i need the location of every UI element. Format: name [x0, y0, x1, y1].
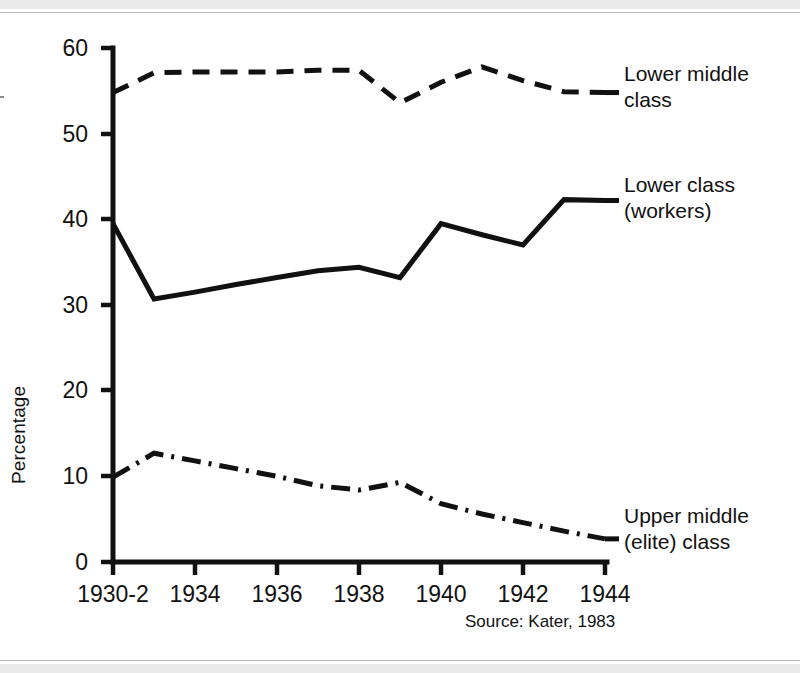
figure-container: Percentage 60 50 40 30 20 10 0 1930-2 19… [0, 0, 800, 673]
series-line-lower-class-workers [113, 200, 605, 299]
y-tick-label-40: 40 [30, 206, 88, 233]
series-label-lower-middle-class-line1: Lower middle [624, 62, 749, 85]
series-label-lower-class-line1: Lower class [624, 173, 735, 196]
series-label-lower-middle-class-line2: class [624, 88, 672, 111]
axis-lines [113, 48, 607, 562]
series-label-upper-middle-class: Upper middle (elite) class [624, 503, 749, 555]
series-label-upper-middle-class-line1: Upper middle [624, 504, 749, 527]
series-line-upper-middle-elite-class [113, 453, 605, 539]
y-tick-label-0: 0 [30, 549, 88, 576]
x-tick-label-1944: 1944 [555, 581, 655, 608]
y-axis-title: Percentage [8, 354, 30, 484]
y-tick-label-60: 60 [30, 35, 88, 62]
y-tick-label-50: 50 [30, 121, 88, 148]
y-tick-label-10: 10 [30, 463, 88, 490]
y-tick-label-30: 30 [30, 292, 88, 319]
data-series-group [113, 67, 619, 539]
y-tick-label-20: 20 [30, 377, 88, 404]
series-label-lower-middle-class: Lower middle class [624, 61, 749, 113]
series-label-upper-middle-class-line2: (elite) class [624, 530, 730, 553]
source-note: Source: Kater, 1983 [465, 612, 615, 632]
series-label-lower-class: Lower class (workers) [624, 172, 735, 224]
series-line-lower-middle-class [113, 67, 605, 103]
series-label-lower-class-line2: (workers) [624, 199, 712, 222]
